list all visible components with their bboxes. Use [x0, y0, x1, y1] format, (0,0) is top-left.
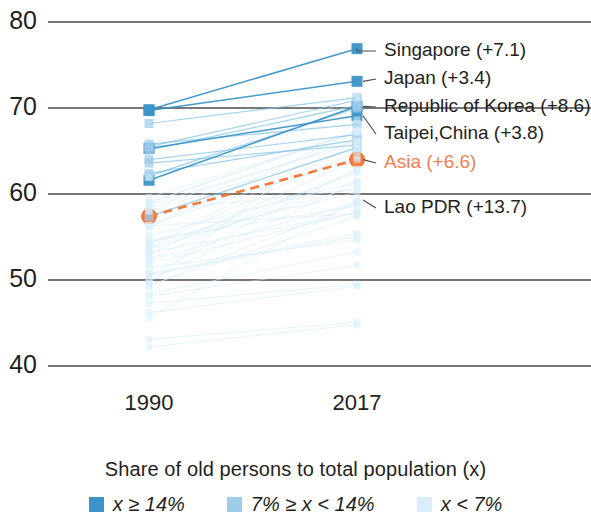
series-line: [149, 148, 357, 217]
series-line: [149, 240, 357, 268]
series-lines-low: [149, 98, 357, 347]
x-axis-tick-label: 2017: [333, 390, 382, 415]
series-line: [149, 265, 357, 296]
series-marker: [354, 186, 361, 193]
series-marker: [146, 256, 153, 263]
y-axis-tick-label: 50: [9, 264, 37, 292]
annotation-leader-japan: [363, 79, 376, 81]
slopegraph-figure: 8070605040 Singapore (+7.1)Japan (+3.4)R…: [0, 0, 591, 532]
series-marker: [354, 248, 361, 255]
x-axis-tick-label: 1990: [125, 390, 174, 415]
series-marker: [354, 117, 361, 124]
annotation-leader-republic-of-korea: [363, 106, 376, 107]
legend-items: x ≥ 14%7% ≥ x < 14%x < 7%: [0, 493, 591, 516]
series-line: [149, 98, 357, 124]
legend-mid-label: 7% ≥ x < 14%: [251, 493, 375, 516]
series-line: [149, 213, 357, 253]
series-marker: [146, 344, 153, 351]
y-axis-tick-label: 40: [9, 350, 37, 378]
legend-low[interactable]: x < 7%: [417, 493, 503, 516]
x-axis-tick-labels: 19902017: [125, 390, 382, 415]
annotation-labels: Singapore (+7.1)Japan (+3.4)Republic of …: [384, 39, 590, 217]
series-marker: [146, 201, 153, 208]
series-marker: [145, 159, 154, 168]
annotation-leader-taipei-china: [363, 116, 376, 134]
legend-high-label: x ≥ 14%: [113, 493, 185, 516]
series-marker: [146, 222, 153, 229]
series-marker: [146, 174, 153, 181]
series-marker: [146, 309, 153, 316]
y-axis-tick-label: 70: [9, 92, 37, 120]
series-marker: [146, 264, 153, 271]
series-marker: [352, 76, 363, 87]
series-marker: [146, 290, 153, 297]
series-marker: [354, 128, 361, 135]
series-marker: [145, 119, 154, 128]
legend-title: Share of old persons to total population…: [0, 458, 591, 481]
series-marker: [146, 300, 153, 307]
series-marker: [354, 166, 361, 173]
series-marker: [146, 237, 153, 244]
legend: Share of old persons to total population…: [0, 450, 591, 532]
series-marker: [353, 104, 362, 113]
series-marker: [354, 262, 361, 269]
series-marker: [146, 270, 153, 277]
series-marker: [146, 208, 153, 215]
series-line: [149, 100, 357, 146]
series-marker: [146, 283, 153, 290]
legend-mid-swatch-icon: [227, 497, 242, 512]
series-line: [149, 216, 357, 285]
series-marker: [354, 236, 361, 243]
annotation-leader-asia: [363, 160, 376, 163]
series-marker: [354, 210, 361, 217]
series-marker: [354, 178, 361, 185]
series-line: [149, 206, 357, 240]
annotation-label-republic-of-korea: Republic of Korea (+8.6): [384, 95, 590, 116]
series-line: [149, 182, 357, 281]
series-marker: [354, 156, 361, 163]
series-marker: [144, 105, 155, 116]
plot-area: 8070605040 Singapore (+7.1)Japan (+3.4)R…: [0, 0, 591, 450]
legend-low-swatch-icon: [417, 497, 432, 512]
series-marker: [354, 145, 361, 152]
annotation-label-japan: Japan (+3.4): [384, 67, 491, 88]
series-marker: [145, 140, 154, 149]
y-axis-tick-labels: 8070605040: [9, 6, 37, 378]
series-marker: [354, 321, 361, 328]
annotation-label-lao-pdr: Lao PDR (+13.7): [384, 196, 527, 217]
annotation-label-singapore: Singapore (+7.1): [384, 39, 526, 60]
annotation-leader-lao-pdr: [363, 200, 376, 208]
series-marker: [354, 203, 361, 210]
legend-low-label: x < 7%: [441, 493, 503, 516]
series-line: [149, 81, 357, 110]
legend-mid[interactable]: 7% ≥ x < 14%: [227, 493, 375, 516]
legend-high-swatch-icon: [89, 497, 104, 512]
legend-high[interactable]: x ≥ 14%: [89, 493, 185, 516]
y-axis-tick-label: 80: [9, 6, 37, 34]
series-marker: [354, 230, 361, 237]
series-line: [149, 322, 357, 339]
series-line: [149, 49, 357, 110]
series-marker: [354, 94, 361, 101]
series-marker: [354, 281, 361, 288]
annotation-label-taipei-china: Taipei,China (+3.8): [384, 122, 544, 143]
series-line: [149, 325, 357, 347]
series-marker: [146, 336, 153, 343]
series-line: [149, 286, 357, 313]
series-marker: [146, 249, 153, 256]
annotation-label-asia: Asia (+6.6): [384, 151, 476, 172]
y-axis-tick-label: 60: [9, 178, 37, 206]
